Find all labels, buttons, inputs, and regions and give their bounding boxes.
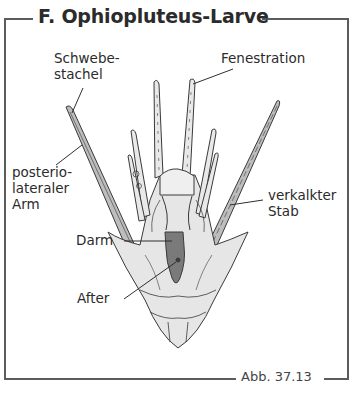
label-darm: Darm [76, 232, 113, 248]
leader-posteriolateral [56, 145, 82, 165]
anus [176, 258, 180, 262]
label-fenestration: Fenestration [221, 50, 305, 66]
label-after: After [77, 290, 109, 306]
right-central-rod [182, 79, 195, 178]
label-schwebestachel: Schwebe- stachel [54, 50, 120, 82]
label-verkalkter-stab: verkalkter Stab [268, 187, 336, 219]
leader-fenestration [193, 69, 233, 84]
leader-schwebestachel [72, 88, 83, 113]
label-posteriolateraler-arm: posterio- lateraler Arm [12, 164, 72, 212]
left-central-rod [154, 80, 163, 178]
figure-caption: Abb. 37.13 [241, 369, 312, 385]
